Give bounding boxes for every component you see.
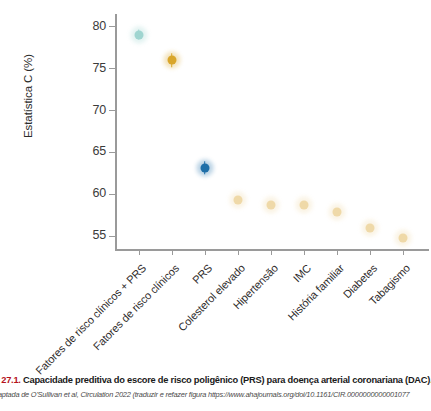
data-point [332, 208, 341, 217]
y-axis-tick [109, 110, 115, 112]
x-axis-tick [337, 250, 339, 255]
y-axis-tick-label: 70 [78, 103, 106, 117]
y-axis-tick [109, 26, 115, 28]
caption-text: Capacidade preditiva do escore de risco … [21, 375, 431, 385]
caption-source-line: daptada de O'Sullivan et al, Circulation… [0, 389, 431, 400]
x-axis-tick [205, 250, 207, 255]
data-point [365, 224, 374, 233]
data-point [398, 234, 407, 243]
data-point [299, 200, 308, 209]
y-axis-tick-label: 55 [78, 228, 106, 242]
y-axis-tick [109, 152, 115, 154]
y-axis-tick [109, 194, 115, 196]
data-point [134, 30, 143, 39]
x-axis-tick [304, 250, 306, 255]
x-axis-tick [403, 250, 405, 255]
y-axis-title: Estatística C (%) [22, 26, 34, 166]
x-axis-tick [172, 250, 174, 255]
caption-figure-number: a 27.1. [0, 375, 21, 385]
figure-caption: a 27.1. Capacidade preditiva do escore d… [0, 374, 431, 400]
x-axis-tick [139, 250, 141, 255]
y-axis-tick [109, 236, 115, 238]
data-point [233, 196, 242, 205]
data-point [266, 200, 275, 209]
y-axis-tick-label: 60 [78, 186, 106, 200]
y-axis-tick [109, 68, 115, 70]
figure-container: Estatística C (%) 556065707580 Fatores d… [0, 0, 431, 370]
caption-primary-line: a 27.1. Capacidade preditiva do escore d… [0, 374, 431, 386]
data-point [200, 163, 209, 172]
x-axis-tick [271, 250, 273, 255]
data-point [167, 56, 176, 65]
x-axis-tick [370, 250, 372, 255]
y-axis-tick-label: 65 [78, 144, 106, 158]
y-axis-tick-label: 75 [78, 61, 106, 75]
y-axis-line [115, 14, 117, 250]
y-axis-tick-label: 80 [78, 19, 106, 33]
x-axis-tick [238, 250, 240, 255]
